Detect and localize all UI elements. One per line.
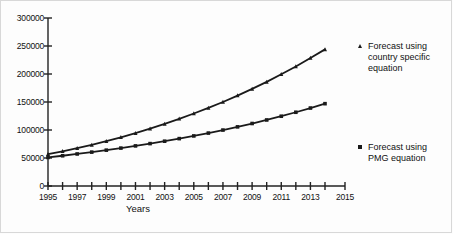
y-tick-label: 200000 (0, 69, 44, 79)
x-tick-label: 2007 (208, 192, 238, 202)
y-tick-label: 150000 (0, 97, 44, 107)
x-tick-label: 2013 (295, 192, 325, 202)
y-tick-label: 300000 (0, 13, 44, 23)
y-tick-label: 250000 (0, 41, 44, 51)
axis-lines (44, 18, 345, 190)
legend-item-label: Forecast using PMG equation (368, 142, 427, 164)
chart-figure: 050000100000150000200000250000300000 199… (0, 0, 453, 234)
x-tick-label: 2015 (330, 192, 360, 202)
y-tick-label: 50000 (0, 153, 44, 163)
y-tick-label: 100000 (0, 125, 44, 135)
x-tick-label: 1995 (33, 192, 63, 202)
legend-item-pmg: Forecast using PMG equation (358, 142, 427, 164)
y-tick-label: 0 (0, 181, 44, 191)
x-tick-label: 1997 (62, 192, 92, 202)
x-tick-label: 2003 (150, 192, 180, 202)
x-tick-label: 2009 (237, 192, 267, 202)
x-tick-label: 2001 (120, 192, 150, 202)
triangle-marker-icon (358, 44, 362, 48)
legend-item-label: Forecast using country specific equation (368, 41, 430, 74)
legend-item-country-specific: Forecast using country specific equation (358, 41, 430, 74)
x-tick-label: 2011 (266, 192, 296, 202)
x-axis-title: Years (78, 203, 198, 214)
data-series-layer (46, 47, 327, 159)
square-marker-icon (358, 145, 362, 149)
x-tick-label: 2005 (179, 192, 209, 202)
x-tick-label: 1999 (91, 192, 121, 202)
